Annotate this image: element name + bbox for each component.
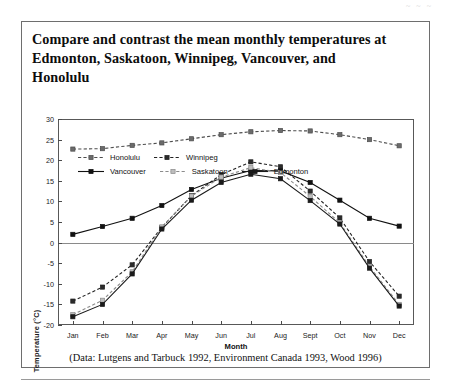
- data-point-marker: [338, 216, 342, 220]
- data-source-credit: (Data: Lutgens and Tarbuck 1992, Environ…: [0, 352, 451, 363]
- x-tick-label: Mar: [126, 331, 138, 340]
- data-point-marker: [397, 224, 401, 228]
- data-point-marker: [397, 294, 401, 298]
- data-point-marker: [308, 180, 312, 184]
- data-point-marker: [249, 130, 253, 134]
- data-point-marker: [308, 198, 312, 202]
- data-point-marker: [160, 227, 164, 231]
- x-tick-label: Oct: [334, 331, 345, 340]
- data-point-marker: [160, 203, 164, 207]
- data-point-marker: [130, 263, 134, 267]
- legend-entry-saskatoon[interactable]: Saskatoon: [160, 167, 228, 176]
- chart-legend: HonoluluWinnipegVancouverSaskatoonEdmont…: [78, 150, 336, 178]
- data-point-marker: [338, 198, 342, 202]
- y-tick-label: -20: [44, 321, 54, 330]
- legend-marker-icon: [78, 153, 104, 162]
- x-tick-label: Feb: [96, 331, 108, 340]
- series-edmonton: [71, 172, 402, 319]
- data-point-marker: [189, 187, 193, 191]
- y-tick-label: -10: [44, 279, 54, 288]
- series-honolulu: [71, 128, 402, 151]
- data-point-marker: [219, 133, 223, 137]
- y-axis-title: Temperature (°C): [32, 238, 44, 390]
- x-axis-title: Month: [58, 342, 414, 351]
- x-tick-label: May: [185, 331, 199, 340]
- y-tick-label: 25: [46, 135, 54, 144]
- data-point-marker: [100, 298, 104, 302]
- data-point-marker: [278, 128, 282, 132]
- y-tick-label: 10: [46, 197, 54, 206]
- legend-entry-honolulu[interactable]: Honolulu: [78, 153, 140, 162]
- data-point-marker: [71, 232, 75, 236]
- legend-label: Honolulu: [110, 153, 140, 162]
- x-tick-label: Sept: [303, 331, 318, 340]
- legend-entry-edmonton[interactable]: Edmonton: [242, 167, 309, 176]
- data-point-marker: [338, 222, 342, 226]
- page-scan-artifact: ~ ~ ~: [406, 2, 433, 11]
- series-winnipeg: [71, 160, 402, 303]
- data-point-marker: [367, 259, 371, 263]
- page-bottom-rule: [21, 379, 430, 380]
- figure-title: Compare and contrast the mean monthly te…: [32, 30, 392, 87]
- y-tick-label: 30: [46, 115, 54, 124]
- legend-label: Edmonton: [274, 167, 309, 176]
- x-tick-label: Nov: [363, 331, 376, 340]
- data-point-marker: [130, 272, 134, 276]
- figure-page: ~ ~ ~ Compare and contrast the mean mont…: [0, 0, 451, 390]
- data-point-marker: [100, 285, 104, 289]
- data-point-marker: [71, 315, 75, 319]
- y-tick-label: 20: [46, 156, 54, 165]
- series-line: [73, 162, 399, 301]
- legend-marker-icon: [242, 167, 268, 176]
- data-point-marker: [308, 129, 312, 133]
- legend-row: HonoluluWinnipeg: [78, 150, 336, 164]
- data-point-marker: [71, 147, 75, 151]
- y-tick-label: 5: [50, 218, 54, 227]
- legend-label: Saskatoon: [192, 167, 228, 176]
- data-point-marker: [367, 216, 371, 220]
- data-point-marker: [160, 141, 164, 145]
- data-point-marker: [71, 299, 75, 303]
- legend-marker-icon: [160, 167, 186, 176]
- y-tick-label: 0: [50, 238, 54, 247]
- x-tick-label: Jan: [67, 331, 79, 340]
- x-tick-label: Apr: [156, 331, 167, 340]
- series-line: [73, 168, 399, 315]
- data-point-marker: [130, 143, 134, 147]
- legend-entry-vancouver[interactable]: Vancouver: [78, 167, 146, 176]
- data-point-marker: [219, 180, 223, 184]
- data-point-marker: [397, 144, 401, 148]
- x-tick-label: Jun: [215, 331, 227, 340]
- legend-entry-winnipeg[interactable]: Winnipeg: [154, 153, 218, 162]
- legend-label: Vancouver: [110, 167, 146, 176]
- data-point-marker: [338, 133, 342, 137]
- data-point-marker: [100, 302, 104, 306]
- legend-label: Winnipeg: [186, 153, 218, 162]
- data-point-marker: [397, 304, 401, 308]
- y-tick-label: -15: [44, 300, 54, 309]
- x-tick-label: Aug: [274, 331, 287, 340]
- y-tick-label: -5: [48, 259, 54, 268]
- data-point-marker: [367, 138, 371, 142]
- series-line: [73, 131, 399, 150]
- data-point-marker: [189, 194, 193, 198]
- data-point-marker: [308, 189, 312, 193]
- series-line: [73, 174, 399, 317]
- data-point-marker: [189, 198, 193, 202]
- data-point-marker: [367, 266, 371, 270]
- x-tick-label: Jul: [246, 331, 255, 340]
- data-point-marker: [130, 216, 134, 220]
- data-point-marker: [308, 194, 312, 198]
- legend-marker-icon: [78, 167, 104, 176]
- x-tick-label: Dec: [393, 331, 406, 340]
- legend-marker-icon: [154, 153, 180, 162]
- y-tick-label: 15: [46, 176, 54, 185]
- legend-row: VancouverSaskatoonEdmonton: [78, 164, 336, 178]
- data-point-marker: [189, 137, 193, 141]
- data-point-marker: [100, 224, 104, 228]
- series-line: [73, 171, 399, 235]
- y-tick-mark: [58, 325, 62, 326]
